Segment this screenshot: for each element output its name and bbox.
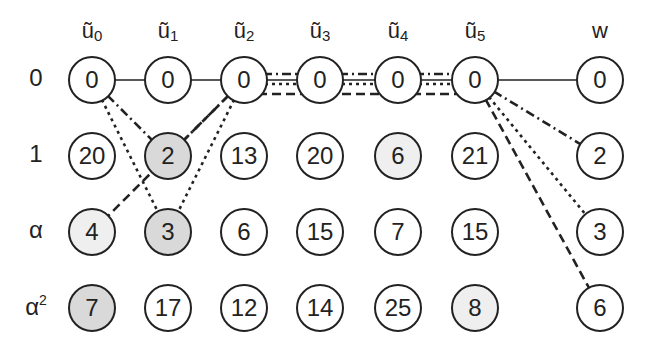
row-label-text: α (29, 216, 43, 243)
column-label-u5: ũ5 (445, 18, 505, 44)
node-u4-r0: 0 (374, 56, 422, 104)
node-u5-ra2: 8 (451, 284, 499, 332)
node-u1-ra: 3 (144, 208, 192, 256)
column-label-u3: ũ3 (290, 18, 350, 44)
row-label-superscript: 2 (39, 292, 47, 308)
node-value: 2 (593, 142, 606, 170)
node-u1-r1: 2 (144, 132, 192, 180)
node-value: 2 (161, 142, 174, 170)
column-label-base: ũ (465, 18, 477, 43)
node-u3-r1: 20 (296, 132, 344, 180)
node-value: 14 (307, 294, 334, 322)
node-value: 15 (462, 218, 489, 246)
column-label-w: w (570, 18, 630, 44)
column-label-subscript: 4 (400, 27, 408, 44)
node-u4-ra: 7 (374, 208, 422, 256)
node-u2-r0: 0 (220, 56, 268, 104)
column-label-subscript: 2 (246, 27, 254, 44)
node-u5-ra: 15 (451, 208, 499, 256)
node-value: 15 (307, 218, 334, 246)
node-value: 20 (79, 142, 106, 170)
node-value: 21 (462, 142, 489, 170)
node-value: 3 (593, 218, 606, 246)
node-w-ra: 3 (576, 208, 624, 256)
node-u2-ra2: 12 (220, 284, 268, 332)
column-label-u2: ũ2 (214, 18, 274, 44)
column-label-base: w (592, 18, 608, 43)
node-u1-ra2: 17 (144, 284, 192, 332)
node-value: 8 (468, 294, 481, 322)
node-value: 0 (391, 66, 404, 94)
node-value: 6 (237, 218, 250, 246)
row-label-text: 0 (29, 64, 42, 91)
node-value: 7 (391, 218, 404, 246)
node-w-r0: 0 (576, 56, 624, 104)
column-label-base: ũ (310, 18, 322, 43)
node-u3-ra: 15 (296, 208, 344, 256)
node-u0-ra2: 7 (68, 284, 116, 332)
node-value: 20 (307, 142, 334, 170)
column-label-subscript: 5 (477, 27, 485, 44)
edge-dotted (489, 97, 586, 215)
column-label-subscript: 3 (322, 27, 330, 44)
node-value: 6 (391, 142, 404, 170)
trellis-diagram: ũ0ũ1ũ2ũ3ũ4ũ5w01αα2 000000020213206212436… (0, 0, 652, 360)
column-label-u1: ũ1 (138, 18, 198, 44)
row-label-text: α (25, 293, 39, 320)
column-label-u0: ũ0 (62, 18, 122, 44)
node-u2-ra: 6 (220, 208, 268, 256)
column-label-base: ũ (388, 18, 400, 43)
node-u0-r0: 0 (68, 56, 116, 104)
node-value: 3 (161, 218, 174, 246)
row-label-r1: 1 (22, 140, 50, 168)
node-value: 4 (85, 218, 98, 246)
node-u3-r0: 0 (296, 56, 344, 104)
node-value: 0 (237, 66, 250, 94)
column-label-base: ũ (234, 18, 246, 43)
node-value: 0 (468, 66, 481, 94)
node-w-ra2: 6 (576, 284, 624, 332)
node-value: 13 (231, 142, 258, 170)
node-value: 0 (161, 66, 174, 94)
node-u0-r1: 20 (68, 132, 116, 180)
column-label-u4: ũ4 (368, 18, 428, 44)
node-value: 12 (231, 294, 258, 322)
node-value: 7 (85, 294, 98, 322)
node-u4-r1: 6 (374, 132, 422, 180)
column-label-subscript: 0 (94, 27, 102, 44)
node-value: 25 (385, 294, 412, 322)
column-label-base: ũ (158, 18, 170, 43)
node-value: 17 (155, 294, 182, 322)
node-value: 6 (593, 294, 606, 322)
node-w-r1: 2 (576, 132, 624, 180)
node-u5-r1: 21 (451, 132, 499, 180)
row-label-ra: α (22, 216, 50, 244)
edge-dashdot (108, 96, 153, 141)
node-value: 0 (593, 66, 606, 94)
node-u4-ra2: 25 (374, 284, 422, 332)
column-label-subscript: 1 (170, 27, 178, 44)
row-label-r0: 0 (22, 64, 50, 92)
edge-dashed (486, 99, 590, 288)
node-u5-r0: 0 (451, 56, 499, 104)
column-label-base: ũ (82, 18, 94, 43)
row-label-ra2: α2 (22, 292, 50, 321)
node-value: 0 (85, 66, 98, 94)
node-u3-ra2: 14 (296, 284, 344, 332)
node-u0-ra: 4 (68, 208, 116, 256)
node-value: 0 (313, 66, 326, 94)
node-u1-r0: 0 (144, 56, 192, 104)
row-label-text: 1 (29, 140, 42, 167)
node-u2-r1: 13 (220, 132, 268, 180)
